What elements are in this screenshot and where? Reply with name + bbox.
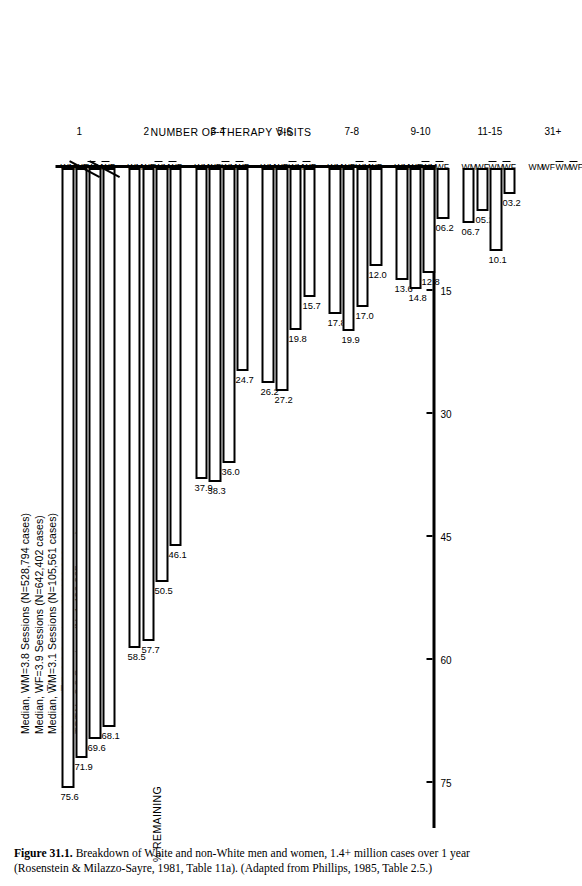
value-axis-tick <box>426 289 432 291</box>
series-tick-label: WF <box>274 162 288 172</box>
series-tick-label: WM <box>555 162 571 172</box>
bar-chart: 7560453015 75.671.969.668.158.557.750.54… <box>0 0 470 886</box>
series-tick-label: WF <box>475 162 489 172</box>
bar <box>275 168 288 391</box>
bar <box>356 168 369 307</box>
series-tick-label: WF <box>541 162 555 172</box>
series-tick-label: WF <box>341 162 355 172</box>
bar <box>489 168 502 251</box>
plot-area: 7560453015 75.671.969.668.158.557.750.54… <box>55 68 445 828</box>
bar <box>88 168 101 739</box>
series-tick-label: WM <box>461 162 477 172</box>
bar <box>169 168 182 546</box>
bar-value-label: 36.0 <box>221 466 239 477</box>
category-label: 11-15 <box>477 126 502 137</box>
bar <box>303 168 316 297</box>
value-axis-tick <box>426 535 432 537</box>
bar <box>462 168 475 223</box>
x-axis-title: NUMBER OF THERAPY VISITS <box>150 126 311 138</box>
category-label: 7-8 <box>344 126 358 137</box>
bar <box>409 168 422 289</box>
bar-value-label: 19.9 <box>341 334 359 345</box>
category-label: 31+ <box>544 126 561 137</box>
value-axis-tick-label: 60 <box>440 655 451 666</box>
series-tick-label: WF <box>168 162 182 172</box>
series-tick-label: WF <box>207 162 221 172</box>
bar-value-label: 14.8 <box>408 292 426 303</box>
bar <box>422 168 435 273</box>
bar-value-label: 06.7 <box>461 226 479 237</box>
category-label: 2 <box>143 126 149 137</box>
series-tick-label: WM <box>288 162 304 172</box>
category-label: 9-10 <box>410 126 430 137</box>
bar-value-label: 15.7 <box>302 300 320 311</box>
bar-value-label: 17.0 <box>355 311 373 322</box>
bar <box>289 168 302 330</box>
bar-value-label: 12.0 <box>368 269 386 280</box>
series-tick-label: WF <box>302 162 316 172</box>
bar-value-label: 27.2 <box>274 394 292 405</box>
bar <box>236 168 249 371</box>
series-tick-label: WM <box>327 162 343 172</box>
series-tick-label: WF <box>502 162 516 172</box>
bar <box>476 168 489 211</box>
bar <box>102 168 115 727</box>
bar-value-label: 68.1 <box>101 730 119 741</box>
figure-caption: Figure 31.1. Breakdown of White and non-… <box>14 847 484 876</box>
bar-value-label: 75.6 <box>60 791 78 802</box>
series-tick-label: WM <box>221 162 237 172</box>
series-tick-label: WM <box>488 162 504 172</box>
value-axis-tick <box>426 658 432 660</box>
bar <box>75 168 88 758</box>
series-tick-label: WM <box>127 162 143 172</box>
bar <box>155 168 168 582</box>
bar-value-label: 10.1 <box>488 254 506 265</box>
bar <box>369 168 382 266</box>
bar-value-label: 12.8 <box>421 276 439 287</box>
value-axis-tick-label: 75 <box>440 778 451 789</box>
bar-value-label: 03.2 <box>502 197 520 208</box>
category-label: 1 <box>76 126 82 137</box>
bar-value-label: 71.9 <box>74 761 92 772</box>
bar-value-label: 19.8 <box>288 333 306 344</box>
figure-caption-text: Breakdown of White and non-White men and… <box>14 847 470 875</box>
figure-number: Figure 31.1. <box>14 847 73 860</box>
bar <box>395 168 408 280</box>
bar <box>222 168 235 463</box>
value-axis-tick-label: 30 <box>440 409 451 420</box>
bar <box>208 168 221 482</box>
bar <box>328 168 341 314</box>
value-axis-tick <box>426 781 432 783</box>
series-tick-label: WF <box>435 162 449 172</box>
series-tick-label: WF <box>141 162 155 172</box>
bar-value-label: 06.2 <box>435 222 453 233</box>
bar-value-label: 46.1 <box>168 549 186 560</box>
bar-value-label: 38.3 <box>207 485 225 496</box>
series-tick-label: WF <box>368 162 382 172</box>
bar <box>436 168 449 219</box>
bar-value-label: 57.7 <box>141 644 159 655</box>
series-tick-label: WF <box>235 162 249 172</box>
bar-value-label: 24.7 <box>235 374 253 385</box>
bar <box>128 168 141 648</box>
value-axis-tick-label: 45 <box>440 532 451 543</box>
bar <box>195 168 208 479</box>
value-axis-tick-label: 15 <box>440 286 451 297</box>
bar <box>261 168 274 383</box>
bar <box>342 168 355 331</box>
series-tick-label: WF <box>408 162 422 172</box>
bar-value-label: 69.6 <box>87 742 105 753</box>
bar-value-label: 50.5 <box>154 585 172 596</box>
series-tick-label: WM <box>394 162 410 172</box>
bar <box>142 168 155 641</box>
series-tick-label: WM <box>154 162 170 172</box>
value-axis-tick <box>426 412 432 414</box>
bar <box>61 168 74 788</box>
series-tick-label: WF <box>569 162 582 172</box>
